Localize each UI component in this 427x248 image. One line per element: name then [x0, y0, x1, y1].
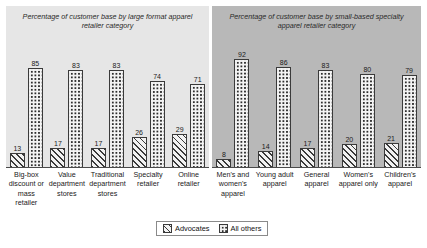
bar-group: 1783	[87, 30, 128, 168]
bar: 13	[10, 153, 25, 168]
bar-advocates: 29	[172, 30, 187, 168]
bar-all-others: 79	[402, 30, 417, 168]
chart-legend: Advocates All others	[156, 221, 268, 236]
bar-value-label: 8	[222, 151, 226, 159]
bar-value-label: 71	[194, 76, 202, 84]
bar-value-label: 85	[31, 60, 39, 68]
bar: 83	[318, 70, 333, 168]
axis-baseline-left	[6, 167, 209, 168]
category-label: Women's apparel only	[337, 170, 379, 214]
bar-advocates: 21	[384, 30, 399, 168]
bar-advocates: 8	[216, 30, 231, 168]
bar-all-others: 92	[234, 30, 249, 168]
bar-value-label: 13	[13, 145, 21, 153]
bar-value-label: 83	[322, 62, 330, 70]
legend-label-all-others: All others	[231, 224, 262, 233]
category-label: Online retailer	[168, 170, 209, 214]
plot-area-left: 13851783178326742971	[6, 6, 209, 168]
bar-group: 2971	[168, 30, 209, 168]
category-label: General apparel	[296, 170, 338, 214]
bar: 85	[28, 68, 43, 168]
bar-value-label: 83	[113, 62, 121, 70]
bar-value-label: 29	[176, 126, 184, 134]
bar-advocates: 14	[258, 30, 273, 168]
bar-group: 1783	[47, 30, 88, 168]
bar-group: 1783	[296, 30, 338, 168]
axis-baseline-right	[212, 167, 421, 168]
category-label: Young adult apparel	[254, 170, 296, 214]
bar: 14	[258, 151, 273, 168]
bar: 74	[150, 81, 165, 168]
bar-value-label: 17	[54, 140, 62, 148]
category-label: Men's and women's apparel	[212, 170, 254, 214]
bar-advocates: 17	[50, 30, 65, 168]
bar-groups-right: 8921486178320802179	[212, 6, 421, 168]
bar-advocates: 13	[10, 30, 25, 168]
bar-value-label: 21	[387, 135, 395, 143]
legend-item-all-others: All others	[219, 224, 262, 233]
bar-value-label: 14	[262, 143, 270, 151]
category-labels-left: Big-box discount or mass retailerValue d…	[6, 170, 209, 214]
bar-value-label: 26	[135, 129, 143, 137]
bar-advocates: 17	[91, 30, 106, 168]
chart-figure: Percentage of customer base by large for…	[0, 0, 427, 248]
category-label: Big-box discount or mass retailer	[6, 170, 47, 214]
bar-all-others: 86	[276, 30, 291, 168]
hatch-swatch-icon	[163, 224, 172, 233]
bar: 83	[109, 70, 124, 168]
bar-all-others: 83	[68, 30, 83, 168]
bar: 21	[384, 143, 399, 168]
bar-advocates: 26	[132, 30, 147, 168]
panel-small-based-specialty: Percentage of customer base by small-bas…	[212, 6, 421, 168]
bar: 92	[234, 59, 249, 168]
bar-group: 2080	[337, 30, 379, 168]
bar-all-others: 71	[190, 30, 205, 168]
bar-value-label: 20	[345, 136, 353, 144]
bar-value-label: 83	[72, 62, 80, 70]
panel-large-format: Percentage of customer base by large for…	[6, 6, 209, 168]
bar: 83	[68, 70, 83, 168]
bar-group: 1385	[6, 30, 47, 168]
bar-value-label: 86	[280, 59, 288, 67]
bar: 17	[91, 148, 106, 168]
bar-value-label: 74	[153, 73, 161, 81]
bar: 29	[172, 134, 187, 168]
bar: 20	[342, 144, 357, 168]
bar-value-label: 79	[405, 67, 413, 75]
bar-all-others: 74	[150, 30, 165, 168]
bar-group: 2179	[379, 30, 421, 168]
plot-area-right: 8921486178320802179	[212, 6, 421, 168]
bar-group: 892	[212, 30, 254, 168]
bar-advocates: 17	[300, 30, 315, 168]
dotted-swatch-icon	[219, 224, 228, 233]
bar-value-label: 17	[304, 140, 312, 148]
bar-groups-left: 13851783178326742971	[6, 6, 209, 168]
bar-advocates: 20	[342, 30, 357, 168]
category-label: Value department stores	[47, 170, 88, 214]
bar-all-others: 83	[109, 30, 124, 168]
bar-all-others: 85	[28, 30, 43, 168]
bar: 71	[190, 84, 205, 168]
bar: 17	[50, 148, 65, 168]
bar-group: 1486	[254, 30, 296, 168]
bar-all-others: 80	[360, 30, 375, 168]
bar-value-label: 92	[238, 51, 246, 59]
category-labels-right: Men's and women's apparelYoung adult app…	[212, 170, 421, 214]
category-label: Children's apparel	[379, 170, 421, 214]
legend-item-advocates: Advocates	[163, 224, 210, 233]
bar: 26	[132, 137, 147, 168]
bar: 79	[402, 75, 417, 168]
bar-value-label: 80	[363, 66, 371, 74]
bar: 86	[276, 67, 291, 168]
bar: 80	[360, 74, 375, 168]
bar: 17	[300, 148, 315, 168]
bar-group: 2674	[128, 30, 169, 168]
legend-label-advocates: Advocates	[175, 224, 210, 233]
category-label: Specialty retailer	[128, 170, 169, 214]
category-label: Traditional department stores	[87, 170, 128, 214]
bar-value-label: 17	[95, 140, 103, 148]
bar-all-others: 83	[318, 30, 333, 168]
